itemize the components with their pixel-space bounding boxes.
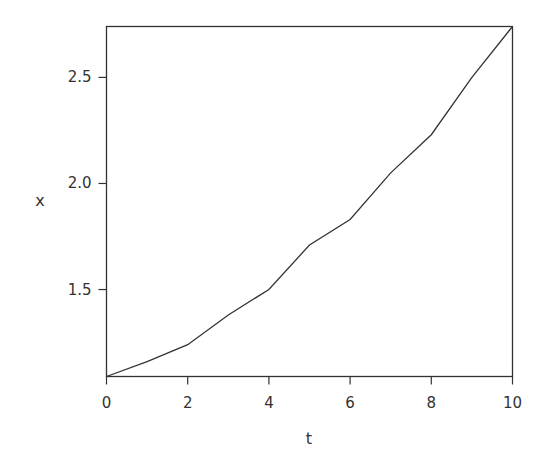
y-tick-label: 2.5 — [68, 68, 92, 86]
line-chart: 0246810 1.52.02.5 t x — [0, 0, 544, 467]
data-line — [107, 27, 513, 377]
y-axis-ticks: 1.52.02.5 — [68, 68, 107, 298]
y-tick-label: 1.5 — [68, 281, 92, 299]
x-tick-label: 10 — [503, 394, 522, 412]
x-axis-ticks: 0246810 — [102, 377, 522, 412]
plot-frame — [107, 27, 513, 377]
x-axis-label: t — [306, 429, 312, 448]
x-tick-label: 8 — [427, 394, 437, 412]
y-tick-label: 2.0 — [68, 174, 92, 192]
x-tick-label: 2 — [183, 394, 193, 412]
y-axis-label: x — [35, 191, 44, 210]
x-tick-label: 0 — [102, 394, 112, 412]
x-tick-label: 4 — [264, 394, 274, 412]
x-tick-label: 6 — [345, 394, 355, 412]
